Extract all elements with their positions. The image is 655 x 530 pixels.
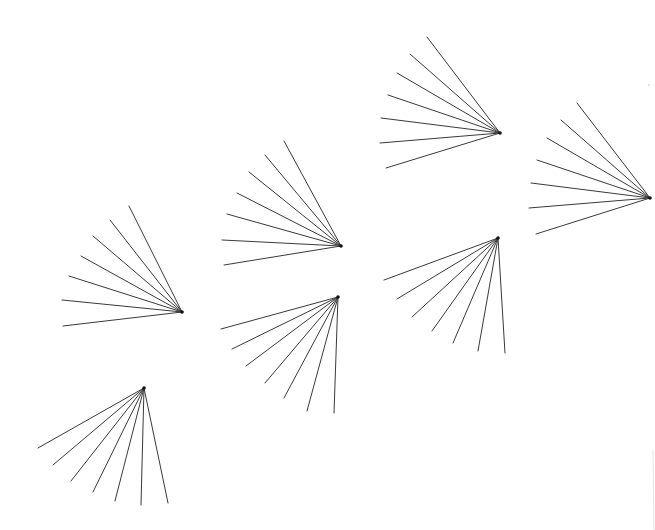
ray-line bbox=[577, 103, 650, 198]
ray-line bbox=[384, 238, 498, 280]
ray-line bbox=[265, 297, 338, 383]
ray-line bbox=[265, 155, 341, 246]
ray-line bbox=[547, 138, 650, 198]
ray-line bbox=[110, 220, 182, 312]
fan-4 bbox=[529, 103, 652, 234]
ray-line bbox=[307, 297, 338, 411]
ray-line bbox=[427, 37, 500, 133]
ray-line bbox=[115, 388, 144, 501]
ray-line bbox=[537, 160, 650, 198]
apex-point bbox=[180, 310, 184, 314]
fan-6 bbox=[384, 236, 505, 353]
ray-line bbox=[529, 198, 650, 208]
ray-line bbox=[93, 236, 182, 312]
ray-line bbox=[561, 120, 650, 198]
ray-line bbox=[412, 238, 498, 317]
ray-line bbox=[221, 297, 338, 329]
ray-line bbox=[129, 206, 182, 312]
ray-line bbox=[478, 238, 498, 351]
ray-line bbox=[536, 198, 650, 234]
fan-7 bbox=[38, 386, 168, 505]
apex-point bbox=[339, 244, 343, 248]
ray-line bbox=[93, 388, 144, 492]
ray-line bbox=[531, 183, 650, 198]
fan-1 bbox=[62, 206, 184, 326]
fan-5 bbox=[221, 295, 340, 413]
ray-line bbox=[432, 238, 498, 331]
ray-line bbox=[63, 312, 182, 326]
ray-line bbox=[144, 388, 168, 503]
ray-line bbox=[380, 133, 500, 143]
apex-point bbox=[648, 196, 652, 200]
apex-point bbox=[496, 236, 500, 240]
ray-line bbox=[237, 193, 341, 246]
fan-2 bbox=[222, 141, 343, 265]
ray-line bbox=[284, 141, 341, 246]
ray-line bbox=[224, 246, 341, 265]
ray-line bbox=[498, 238, 505, 353]
faint-edge-line bbox=[653, 450, 654, 530]
edge-artifacts bbox=[648, 84, 654, 530]
faint-dot bbox=[648, 84, 650, 86]
ray-line bbox=[284, 297, 338, 398]
ray-line bbox=[71, 388, 144, 481]
ray-line bbox=[381, 118, 500, 133]
fan-3 bbox=[380, 37, 502, 168]
ray-line bbox=[334, 297, 338, 413]
ray-line bbox=[453, 238, 498, 343]
apex-point bbox=[142, 386, 146, 390]
ray-line bbox=[410, 54, 500, 133]
ray-line bbox=[246, 297, 338, 366]
ray-line bbox=[38, 388, 144, 448]
ray-line bbox=[53, 388, 144, 465]
ray-line bbox=[397, 238, 498, 299]
apex-point bbox=[336, 295, 340, 299]
ray-line bbox=[141, 388, 144, 505]
apex-point bbox=[498, 131, 502, 135]
line-fan-diagram bbox=[0, 0, 655, 530]
ray-line bbox=[232, 297, 338, 349]
fans-group bbox=[38, 37, 652, 505]
ray-line bbox=[249, 172, 341, 246]
